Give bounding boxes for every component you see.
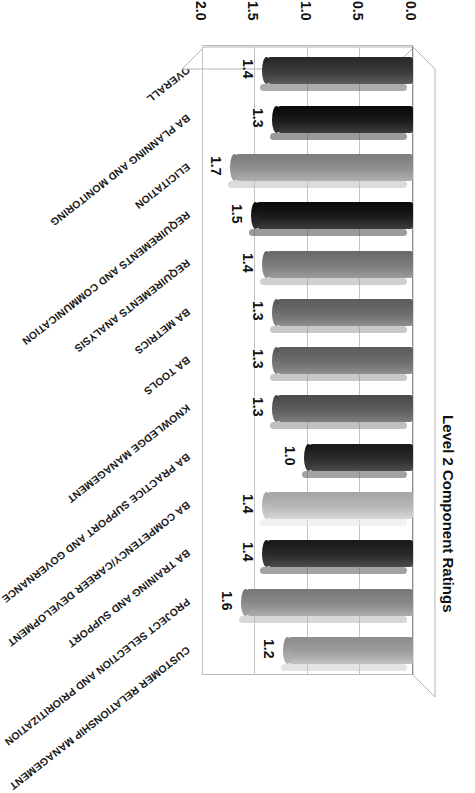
bar-value-label: 1.5 [230,204,246,223]
bar [256,202,414,229]
bar-row [203,140,413,192]
bar-row [203,381,413,433]
bar [266,492,413,519]
plot-left-wall [411,45,435,697]
bar-value-label: 1.4 [240,59,256,78]
bar-value-label: 1.7 [209,156,225,175]
bar-top-face [260,519,407,526]
category-label: KNOWLEDGE MANAGEMENT [65,403,193,506]
bar-end-cap [262,492,271,519]
category-label: ELICITATION [133,161,193,211]
bar [266,57,413,84]
bar-value-label: 1.6 [219,591,235,610]
bar [245,589,413,616]
bar [266,251,413,278]
category-label: BA TRAINING AND SUPPORT [66,548,193,651]
bar [266,540,413,567]
bar-top-face [281,664,407,671]
bar-value-label: 1.3 [251,301,267,320]
bar-top-face [239,616,407,623]
bar-row [203,91,413,143]
bar-row [203,236,413,288]
category-label: OVERALL [145,64,193,105]
category-label: BA METRICS [133,306,193,357]
bar-top-face [260,278,407,285]
bar-value-label: 1.3 [251,108,267,127]
bar-value-label: 1.4 [240,542,256,561]
chart-title: Level 2 Component Ratings [440,415,457,613]
bar [308,444,413,471]
bar-row [203,478,413,530]
bar-row [203,526,413,578]
bar-end-cap [241,589,250,616]
bar [277,106,414,133]
bar-row [203,285,413,337]
bar-value-label: 1.4 [240,253,256,272]
bar-top-face [271,422,408,429]
bar-row [203,43,413,95]
bar-value-label: 1.0 [282,446,298,465]
bar [287,637,413,664]
bar-top-face [271,326,408,333]
bar-top-face [229,181,408,188]
bar-top-face [302,471,407,478]
bar [277,395,414,422]
bar-top-face [260,84,407,91]
bar-top-face [271,133,408,140]
bar-value-label: 1.3 [251,349,267,368]
bar-top-face [260,567,407,574]
bar [277,299,414,326]
bar-value-label: 1.4 [240,494,256,513]
bar-value-label: 1.2 [261,639,277,658]
bar [277,347,414,374]
bar-row [203,429,413,481]
bar [235,154,414,181]
category-label: REQUIREMENTS ANALYSIS [72,258,192,356]
bar-top-face [250,229,408,236]
bar-top-face [271,374,408,381]
bar-end-cap [304,444,313,471]
category-label: BA TOOLS [142,354,193,397]
bar-row [203,333,413,385]
bar-end-cap [262,251,271,278]
bar-end-cap [283,637,292,664]
plot-area [203,47,413,675]
bar-row [203,623,413,675]
bar-value-label: 1.3 [251,397,267,416]
